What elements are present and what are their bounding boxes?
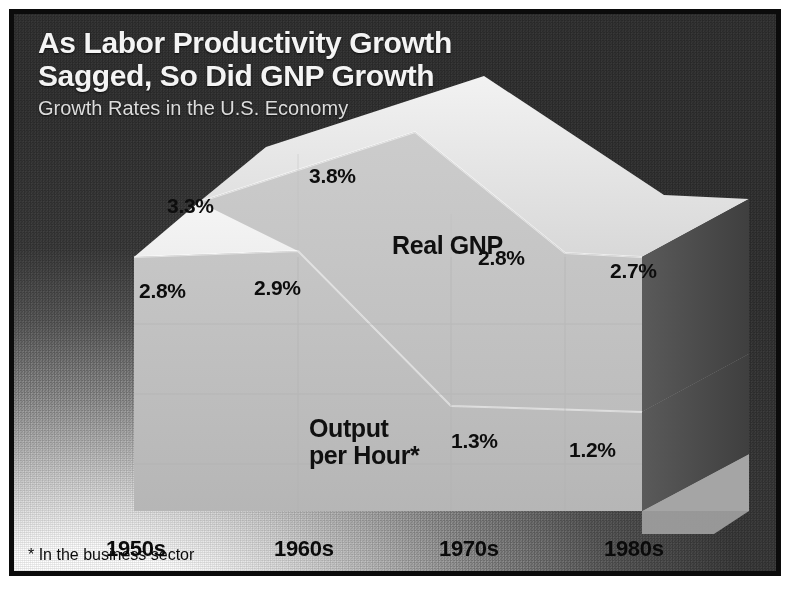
subtitle: Growth Rates in the U.S. Economy bbox=[38, 95, 738, 122]
x-axis-label-1970s: 1970s bbox=[439, 536, 499, 562]
value-label-output-per-hour-1960s: 2.9% bbox=[254, 276, 301, 300]
series-label-output-line-2: per Hour* bbox=[309, 441, 419, 469]
value-label-real-gnp-1960s: 3.8% bbox=[309, 164, 356, 188]
value-label-output-per-hour-1950s: 2.8% bbox=[139, 279, 186, 303]
x-axis-label-1960s: 1960s bbox=[274, 536, 334, 562]
series-label-output-per-hour: Output per Hour* bbox=[309, 415, 419, 469]
title-block: As Labor Productivity Growth Sagged, So … bbox=[38, 26, 738, 122]
title-line-1: As Labor Productivity Growth bbox=[38, 26, 738, 59]
series-label-output-line-1: Output bbox=[309, 414, 389, 442]
title-line-2: Sagged, So Did GNP Growth bbox=[38, 59, 738, 92]
value-label-output-per-hour-1980s: 1.2% bbox=[569, 438, 616, 462]
figure-canvas: As Labor Productivity Growth Sagged, So … bbox=[0, 0, 792, 589]
value-label-output-per-hour-1970s: 1.3% bbox=[451, 429, 498, 453]
figure-border: As Labor Productivity Growth Sagged, So … bbox=[9, 9, 781, 576]
footnote: * In the business sector bbox=[28, 546, 194, 564]
value-label-real-gnp-1950s: 3.3% bbox=[167, 194, 214, 218]
chart-stage: As Labor Productivity Growth Sagged, So … bbox=[14, 14, 776, 571]
x-axis-label-1980s: 1980s bbox=[604, 536, 664, 562]
series-label-real-gnp: Real GNP bbox=[392, 232, 503, 259]
value-label-real-gnp-1980s: 2.7% bbox=[610, 259, 657, 283]
